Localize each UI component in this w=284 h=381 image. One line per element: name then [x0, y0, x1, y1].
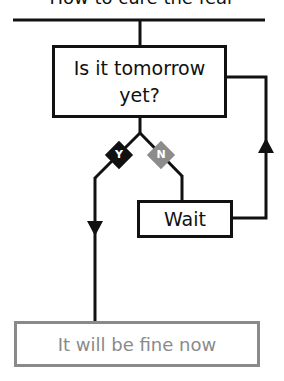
decision-node-label: Is it tomorrow yet?	[70, 55, 210, 109]
terminal-node-label: It will be fine now	[58, 334, 216, 355]
terminal-node-result: It will be fine now	[14, 321, 260, 367]
process-node-label: Wait	[164, 208, 206, 230]
yes-branch-label: Y	[109, 145, 129, 165]
process-node-wait: Wait	[137, 200, 233, 238]
up-arrow-icon	[258, 138, 274, 153]
loop-back-connector	[226, 77, 266, 218]
down-arrow-icon	[87, 221, 103, 236]
no-branch-label: N	[151, 145, 171, 165]
decision-node-question: Is it tomorrow yet?	[52, 45, 227, 118]
